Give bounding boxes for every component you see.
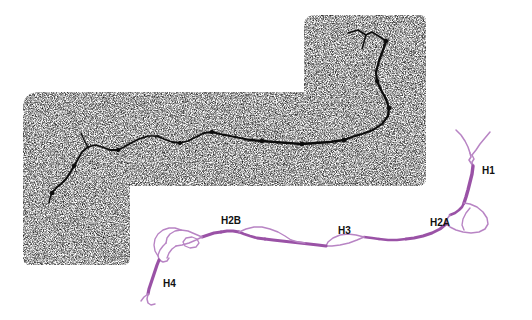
stippled-electron-micrograph-region	[0, 0, 532, 320]
label-h1: H1	[482, 166, 495, 176]
label-h3: H3	[338, 226, 351, 236]
label-h2a: H2A	[430, 218, 450, 228]
label-h4: H4	[163, 279, 176, 289]
label-h2b: H2B	[221, 216, 241, 226]
figure-canvas: H1 H2A H3 H2B H4	[0, 0, 532, 320]
figure-svg	[0, 0, 532, 320]
